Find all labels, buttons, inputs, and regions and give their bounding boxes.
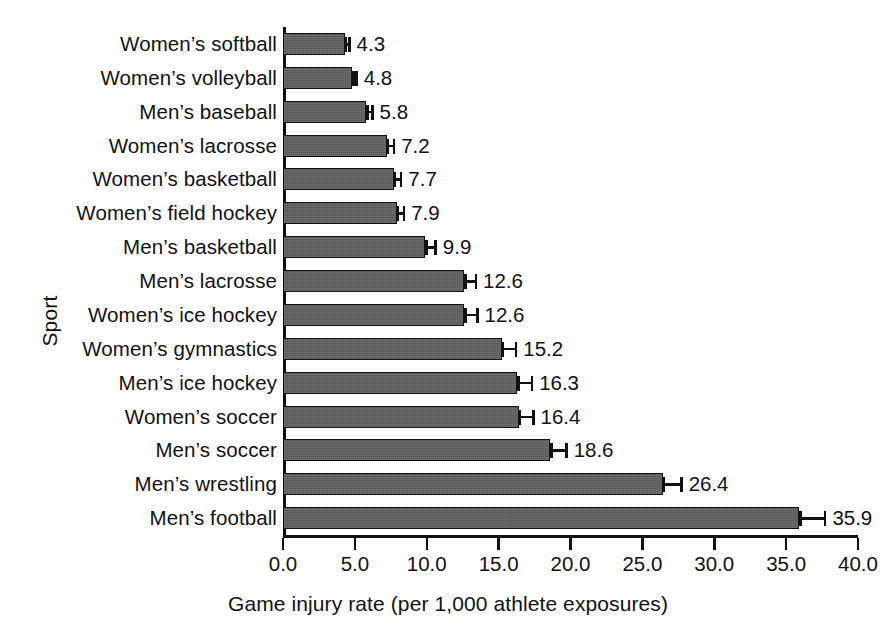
x-tick [569,538,572,550]
bar-texture [284,373,516,393]
bar-category-label: Men’s soccer [155,433,277,467]
bar-texture [284,339,501,359]
error-bar-cap-left [464,308,467,323]
error-bar-cap-right [403,206,406,221]
bar [283,67,352,89]
bar-row: Men’s lacrosse12.6 [283,264,858,298]
bar-texture [284,169,393,189]
error-bar [799,517,826,520]
error-bar-cap-left [550,443,553,458]
error-bar-cap-right [531,376,534,391]
bar [283,372,517,394]
error-bar-cap-right [565,443,568,458]
error-bar-cap-left [502,342,505,357]
x-tick-label: 20.0 [551,552,591,576]
bar-value-label: 7.2 [401,133,430,159]
bar-row: Women’s lacrosse7.2 [283,129,858,163]
bar-row: Women’s soccer16.4 [283,400,858,434]
x-tick [497,538,500,550]
error-bar-cap-left [663,477,666,492]
bar-texture [284,68,351,88]
error-bar-cap-right [680,477,683,492]
x-tick [857,538,860,550]
bar [283,236,425,258]
bar-value-label: 9.9 [443,234,472,260]
bar-category-label: Women’s basketball [93,162,278,196]
bar-row: Women’s basketball7.7 [283,162,858,196]
bar-texture [284,102,365,122]
bar [283,406,519,428]
bar-row: Men’s baseball5.8 [283,95,858,129]
error-bar-cap-right [476,308,479,323]
x-tick-label: 40.0 [838,552,878,576]
error-bar-cap-right [824,511,827,526]
error-bar-cap-left [464,274,467,289]
bar [283,338,502,360]
bar-value-label: 5.8 [380,99,409,125]
x-axis-ticks: 0.05.010.015.020.025.030.035.040.0 [283,538,858,598]
bar-category-label: Women’s volleyball [100,61,277,95]
bar-value-label: 16.3 [539,370,579,396]
bar-value-label: 12.6 [483,268,523,294]
x-tick [354,538,357,550]
x-tick [641,538,644,550]
x-tick [785,538,788,550]
bar-texture [284,271,463,291]
bar [283,473,663,495]
bar [283,168,394,190]
bar-texture [284,407,518,427]
bar-series: Women’s softball4.3Women’s volleyball4.8… [283,27,858,535]
bar-texture [284,34,344,54]
error-bar-cap-left [352,71,355,86]
bar-category-label: Men’s ice hockey [119,366,277,400]
bar-category-label: Men’s baseball [139,95,277,129]
bar-texture [284,440,549,460]
x-tick-label: 25.0 [622,552,662,576]
error-bar-cap-left [799,511,802,526]
error-bar-cap-right [371,105,374,120]
error-bar-cap-left [394,172,397,187]
bar [283,202,397,224]
bar-row: Men’s soccer18.6 [283,433,858,467]
bar-category-label: Men’s wrestling [135,467,277,501]
x-tick-label: 10.0 [407,552,447,576]
bar-chart: Sport Women’s softball4.3Women’s volleyb… [0,0,896,641]
bar-value-label: 7.9 [411,200,440,226]
bar [283,101,366,123]
y-axis-title-text: Sport [38,295,62,346]
bar [283,135,387,157]
bar-category-label: Women’s softball [120,27,277,61]
bar-category-label: Women’s ice hockey [88,298,277,332]
x-tick-label: 35.0 [766,552,806,576]
bar-row: Men’s football35.9 [283,501,858,535]
error-bar-cap-left [397,206,400,221]
bar-value-label: 4.8 [364,65,393,91]
error-bar-cap-left [345,37,348,52]
bar-texture [284,508,798,528]
x-axis-title: Game injury rate (per 1,000 athlete expo… [0,592,896,616]
x-tick-label: 15.0 [479,552,519,576]
bar-row: Women’s volleyball4.8 [283,61,858,95]
error-bar-cap-right [355,71,358,86]
bar-row: Women’s softball4.3 [283,27,858,61]
bar-value-label: 7.7 [408,166,437,192]
error-bar-cap-left [425,240,428,255]
error-bar-cap-right [393,139,396,154]
bar [283,439,550,461]
error-bar-cap-right [475,274,478,289]
y-axis-title: Sport [10,0,90,641]
bar-texture [284,136,386,156]
plot-area: Women’s softball4.3Women’s volleyball4.8… [283,27,858,535]
x-tick-label: 5.0 [341,552,370,576]
bar-category-label: Women’s soccer [125,400,277,434]
bar-value-label: 35.9 [832,505,872,531]
bar-value-label: 15.2 [523,336,563,362]
bar-category-label: Women’s lacrosse [109,129,277,163]
x-tick [282,538,285,550]
error-bar-cap-left [519,410,522,425]
error-bar-cap-left [366,105,369,120]
bar-texture [284,203,396,223]
error-bar-cap-right [532,410,535,425]
bar-row: Men’s ice hockey16.3 [283,366,858,400]
bar-value-label: 12.6 [485,302,525,328]
